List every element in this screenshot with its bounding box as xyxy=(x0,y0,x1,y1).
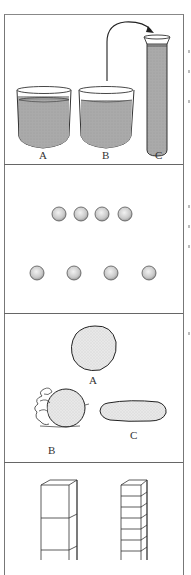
clipped-text-mark xyxy=(188,50,190,53)
tower-large-cubes xyxy=(41,480,77,560)
clipped-text-mark xyxy=(188,225,190,228)
clipped-text-mark xyxy=(188,245,190,248)
clipped-text-mark xyxy=(188,70,190,73)
clipped-text-mark xyxy=(188,332,190,335)
clipped-text-mark xyxy=(188,100,190,103)
clipped-text-mark xyxy=(188,205,190,208)
tower-thin-slabs xyxy=(121,480,147,560)
